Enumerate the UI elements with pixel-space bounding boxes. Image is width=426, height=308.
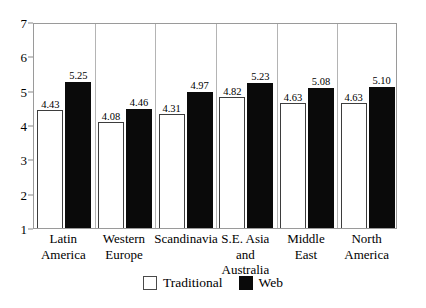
legend-item-traditional[interactable]: Traditional	[143, 276, 223, 290]
bar-web: 5.23	[247, 83, 273, 228]
chart-legend: TraditionalWeb	[0, 276, 426, 290]
bar-group: 4.314.97	[155, 24, 216, 228]
bar-group: 4.084.46	[95, 24, 156, 228]
bar-chart: 1234567 4.435.254.084.464.314.974.825.23…	[0, 0, 426, 308]
bar-value-label: 4.43	[41, 99, 59, 110]
bar-group: 4.825.23	[216, 24, 277, 228]
legend-swatch-web-icon	[239, 276, 253, 290]
x-axis-label-line: North	[336, 231, 397, 247]
x-axis-label-line: Scandinavia	[154, 231, 215, 247]
bar-group: 4.635.10	[337, 24, 398, 228]
y-axis-tick-label: 5	[21, 85, 28, 98]
x-axis-label-line: East	[276, 247, 337, 263]
bar-value-label: 4.31	[162, 103, 180, 114]
bar-web: 5.08	[308, 88, 334, 228]
bar-value-label: 4.63	[284, 92, 302, 103]
x-axis-category-label: S.E. Asiaand Australia	[215, 231, 276, 278]
y-axis-tick-label: 7	[21, 17, 28, 30]
y-axis-tick-label: 3	[21, 154, 28, 167]
x-axis-label-line: Latin	[33, 231, 94, 247]
bar-value-label: 4.97	[190, 80, 208, 91]
bar-traditional: 4.63	[280, 103, 306, 228]
x-axis-label-line: S.E. Asia	[215, 231, 276, 247]
plot-area: 4.435.254.084.464.314.974.825.234.635.08…	[33, 23, 397, 229]
legend-swatch-traditional-icon	[143, 276, 157, 290]
bar-web: 4.46	[126, 109, 152, 228]
x-axis-label-line: America	[33, 247, 94, 263]
bar-traditional: 4.31	[159, 114, 185, 228]
bar-value-label: 4.82	[223, 86, 241, 97]
x-axis-category-label: Scandinavia	[154, 231, 215, 247]
x-axis-category-label: NorthAmerica	[336, 231, 397, 262]
bar-traditional: 4.82	[219, 97, 245, 228]
y-axis-tick-label: 4	[21, 120, 28, 133]
bar-group: 4.435.25	[34, 24, 95, 228]
bar-traditional: 4.43	[37, 110, 63, 228]
bar-group: 4.635.08	[277, 24, 338, 228]
bar-traditional: 4.63	[341, 103, 367, 228]
bar-value-label: 4.46	[130, 97, 148, 108]
bar-value-label: 5.23	[251, 71, 269, 82]
legend-item-web[interactable]: Web	[239, 276, 283, 290]
legend-label: Web	[259, 276, 283, 290]
bar-value-label: 4.63	[344, 92, 362, 103]
x-axis-category-label: MiddleEast	[276, 231, 337, 262]
bar-value-label: 5.10	[372, 75, 390, 86]
y-axis-tick-label: 2	[21, 188, 28, 201]
x-axis-label-line: America	[336, 247, 397, 263]
y-axis-tick-label: 6	[21, 51, 28, 64]
bar-web: 5.10	[369, 87, 395, 228]
x-axis-labels: LatinAmericaWesternEuropeScandinaviaS.E.…	[33, 231, 397, 271]
bar-value-label: 5.25	[69, 70, 87, 81]
x-axis-category-label: WesternEurope	[94, 231, 155, 262]
bar-web: 4.97	[187, 92, 213, 228]
x-axis-label-line: Europe	[94, 247, 155, 263]
bar-value-label: 4.08	[102, 111, 120, 122]
x-axis-label-line: and Australia	[215, 247, 276, 278]
x-axis-label-line: Western	[94, 231, 155, 247]
x-axis-label-line: Middle	[276, 231, 337, 247]
bar-web: 5.25	[65, 82, 91, 228]
legend-label: Traditional	[163, 276, 223, 290]
y-axis-tick-label: 1	[21, 223, 28, 236]
y-axis: 1234567	[0, 0, 34, 308]
bar-value-label: 5.08	[312, 76, 330, 87]
x-axis-category-label: LatinAmerica	[33, 231, 94, 262]
bar-traditional: 4.08	[98, 122, 124, 228]
